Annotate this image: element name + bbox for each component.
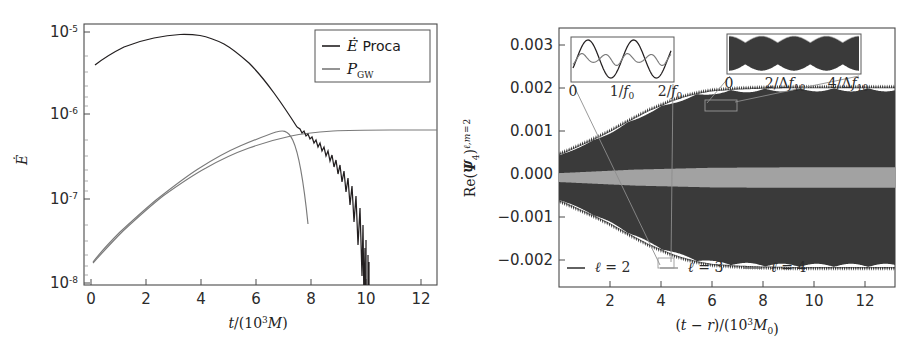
right-legend-label-ell3: ℓ = 3 — [688, 259, 723, 275]
right-ytick-labels: 0.003 0.002 0.001 0.000 −0.001 −0.002 — [497, 36, 553, 269]
left-xlabel: t/(103M) — [228, 315, 287, 331]
inset-right-tick-1: 2/Δf10 — [765, 75, 806, 93]
right-ytick-2: 0.001 — [510, 122, 553, 140]
right-ytick-4: −0.001 — [497, 208, 553, 226]
energy-flux-panel: Ė 10-5 10-6 10-7 10-8 — [0, 0, 455, 352]
left-xtick-0: 0 — [86, 290, 96, 308]
left-ytick-labels: 10-5 10-6 10-7 10-8 — [50, 23, 78, 292]
left-panel-svg: Ė 10-5 10-6 10-7 10-8 — [0, 0, 455, 352]
right-ytick-5: −0.002 — [497, 251, 553, 269]
right-xtick-3: 8 — [758, 292, 768, 310]
right-xtick-0: 2 — [605, 292, 615, 310]
left-ytick-2: 10-7 — [50, 190, 78, 208]
curve-p-gw — [93, 131, 308, 262]
right-ylabel: Re(Ψ4)ℓ,m = 2 — [462, 119, 481, 198]
right-ytick-1: 0.002 — [510, 79, 553, 97]
curve-edot-proca-oscillating — [297, 127, 366, 340]
left-legend-label-edot: Ė Proca — [346, 37, 401, 55]
left-y-ticks — [84, 32, 90, 283]
left-xtick-1: 2 — [141, 290, 151, 308]
psi4-waveform-panel: Re(Ψ4)ℓ,m = 2 0.003 0.002 0.001 0.000 −0… — [455, 0, 909, 352]
inset-right-ticklabels: 0 2/Δf10 4/Δf10 — [725, 75, 869, 93]
left-xtick-4: 8 — [306, 290, 316, 308]
figure-root: Ė 10-5 10-6 10-7 10-8 — [0, 0, 909, 352]
left-ytick-1: 10-6 — [50, 105, 78, 123]
right-ytick-0: 0.003 — [510, 36, 553, 54]
left-ytick-0: 10-5 — [50, 23, 78, 41]
left-xtick-2: 4 — [196, 290, 206, 308]
waveform-traces — [559, 84, 895, 270]
right-xtick-5: 12 — [855, 292, 874, 310]
right-xlabel: (t − r)/(103M0) — [675, 317, 778, 337]
inset-beating-df10: 0 2/Δf10 4/Δf10 — [725, 34, 869, 93]
left-legend: Ė Proca PGW — [315, 30, 430, 82]
source-box-left-inset — [658, 258, 674, 268]
left-xtick-6: 12 — [411, 290, 430, 308]
inset-right-tick-0: 0 — [725, 75, 734, 91]
right-xtick-4: 10 — [804, 292, 823, 310]
curve-p-gw-main — [93, 130, 437, 263]
curve-edot-proca-smooth — [95, 34, 297, 127]
right-xtick-labels: 2 4 6 8 10 12 — [605, 292, 874, 310]
left-ytick-3: 10-8 — [50, 274, 78, 292]
right-xtick-1: 4 — [656, 292, 666, 310]
right-legend-label-ell2: ℓ = 2 — [595, 259, 630, 275]
left-x-ticks — [91, 279, 421, 285]
left-xtick-5: 10 — [356, 290, 375, 308]
right-x-ticks — [610, 281, 865, 287]
inset-oscillation-f0: 0 1/f0 2/f0 — [569, 37, 683, 101]
left-ylabel: Ė — [13, 155, 30, 166]
inset-right-tick-2: 4/Δf10 — [828, 75, 869, 93]
right-legend-label-ell4: ℓ = 4 — [771, 259, 806, 275]
right-xtick-2: 6 — [707, 292, 717, 310]
inset-left-tick-2: 2/f0 — [658, 83, 683, 101]
inset-left-ticklabels: 0 1/f0 2/f0 — [569, 83, 683, 101]
right-legend: ℓ = 2 ℓ = 3 ℓ = 4 — [567, 259, 806, 275]
left-xtick-3: 6 — [251, 290, 261, 308]
right-ytick-3: 0.000 — [510, 165, 553, 183]
inset-left-tick-0: 0 — [569, 83, 578, 99]
right-panel-svg: Re(Ψ4)ℓ,m = 2 0.003 0.002 0.001 0.000 −0… — [455, 0, 909, 352]
left-xtick-labels: 0 2 4 6 8 10 12 — [86, 290, 430, 308]
inset-left-tick-1: 1/f0 — [610, 83, 635, 101]
